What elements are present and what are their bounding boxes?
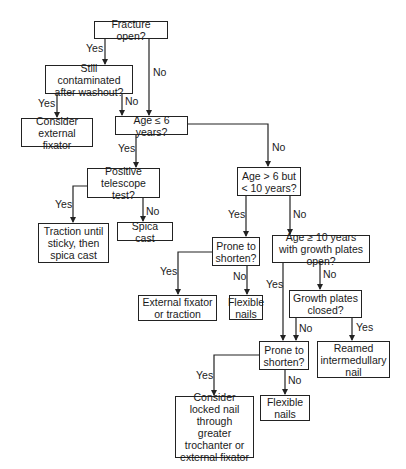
edge-label-no: No xyxy=(293,208,306,220)
outcome-consider-locked-nail: Consider locked nail through greater tro… xyxy=(175,396,254,458)
edge-label-no: No xyxy=(299,322,312,334)
node-label: Flexible nails xyxy=(228,296,264,320)
edge-label-yes: Yes xyxy=(55,198,72,210)
node-label: Reamed intermedullary nail xyxy=(321,342,387,378)
edge-label-yes: Yes xyxy=(228,208,245,220)
outcome-external-fixator-or-traction: External fixator or traction xyxy=(138,295,217,321)
edge-label-no: No xyxy=(233,270,246,282)
edge-label-yes: Yes xyxy=(160,265,177,277)
edge-label-yes: Yes xyxy=(356,321,373,333)
edge-label-yes: Yes xyxy=(38,97,55,109)
decision-still-contaminated: Still contaminated after washout? xyxy=(45,65,133,94)
node-label: Fracture open? xyxy=(98,18,164,42)
node-label: Traction until sticky, then spica cast xyxy=(42,225,105,261)
outcome-reamed-intermedullary-nail: Reamed intermedullary nail xyxy=(317,341,390,378)
edge-label-no: No xyxy=(323,268,336,280)
node-label: Growth plates closed? xyxy=(293,292,358,316)
outcome-traction-then-spica: Traction until sticky, then spica cast xyxy=(38,223,109,263)
decision-age-6-to-10: Age > 6 but < 10 years? xyxy=(237,167,301,196)
edge-label-yes: Yes xyxy=(118,142,135,154)
node-label: Spica cast xyxy=(121,220,169,244)
decision-prone-to-shorten-1: Prone to shorten? xyxy=(212,237,260,266)
node-label: Positive telescope test? xyxy=(91,165,156,201)
node-label: Still contaminated after washout? xyxy=(49,62,129,98)
decision-growth-plates-closed: Growth plates closed? xyxy=(289,290,362,318)
node-label: External fixator or traction xyxy=(142,296,213,320)
node-label: Age ≤ 6 years? xyxy=(119,114,184,138)
outcome-spica-cast: Spica cast xyxy=(117,222,173,241)
edge-label-no: No xyxy=(153,66,166,78)
edge-label-no: No xyxy=(125,95,138,107)
decision-positive-telescope-test: Positive telescope test? xyxy=(87,168,160,198)
decision-fracture-open: Fracture open? xyxy=(94,21,168,39)
edge-label-yes: Yes xyxy=(86,42,103,54)
decision-prone-to-shorten-2: Prone to shorten? xyxy=(259,341,309,370)
outcome-consider-external-fixator: Consider external fixator xyxy=(21,118,93,147)
outcome-flexible-nails-2: Flexible nails xyxy=(260,395,310,421)
node-label: Prone to shorten? xyxy=(216,240,257,264)
node-label: Consider external fixator xyxy=(25,115,89,151)
node-label: Consider locked nail through greater tro… xyxy=(179,391,250,463)
edge-label-no: No xyxy=(288,374,301,386)
node-label: Prone to shorten? xyxy=(263,344,305,368)
node-label: Age > 6 but < 10 years? xyxy=(241,170,297,194)
edge-label-yes: Yes xyxy=(196,369,213,381)
edge-label-yes: Yes xyxy=(266,278,283,290)
edge-label-no: No xyxy=(272,141,285,153)
node-label: Age ≥ 10 years with growth plates open? xyxy=(276,231,366,267)
node-label: Flexible nails xyxy=(264,396,306,420)
decision-age-le-6: Age ≤ 6 years? xyxy=(115,116,188,135)
outcome-flexible-nails-1: Flexible nails xyxy=(229,295,263,320)
edge-label-no: No xyxy=(146,205,159,217)
decision-age-ge-10-growth-plates-open: Age ≥ 10 years with growth plates open? xyxy=(272,235,370,263)
